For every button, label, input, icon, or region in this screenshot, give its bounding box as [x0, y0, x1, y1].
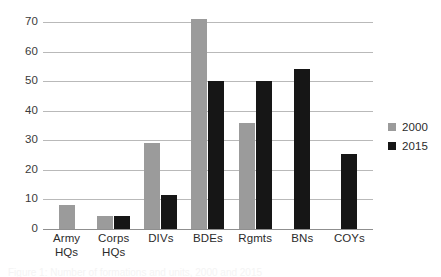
- x-axis-tick-label-line: COYs: [326, 232, 373, 246]
- x-axis: ArmyHQsCorpsHQsDIVsBDEsRgmtsBNsCOYs: [43, 232, 373, 272]
- bar-bns-2015: [294, 69, 310, 229]
- x-axis-tick-label: CorpsHQs: [90, 232, 137, 259]
- x-axis-tick-label-line: Corps: [90, 232, 137, 246]
- bar-rgmts-2000: [239, 123, 255, 229]
- y-axis-tick-label: 70: [2, 16, 38, 28]
- bar-rgmts-2015: [256, 81, 272, 229]
- x-axis-tick-label: DIVs: [137, 232, 184, 246]
- y-axis: 010203040506070: [0, 22, 38, 229]
- bar-group: [279, 22, 326, 229]
- x-axis-baseline: [43, 229, 373, 230]
- x-axis-tick-label-line: HQs: [43, 246, 90, 260]
- y-axis-tick-label: 50: [2, 75, 38, 87]
- figure-caption: Figure 1: Number of formations and units…: [8, 268, 308, 277]
- bar-group: [90, 22, 137, 229]
- x-axis-tick-label: Rgmts: [232, 232, 279, 246]
- legend-item-2000[interactable]: 2000: [388, 117, 441, 136]
- bar-group: [43, 22, 90, 229]
- x-axis-tick-label-line: HQs: [90, 246, 137, 260]
- bar-bdes-2000: [191, 19, 207, 229]
- legend-label: 2000: [402, 121, 428, 133]
- bar-bdes-2015: [208, 81, 224, 229]
- x-axis-tick-label: ArmyHQs: [43, 232, 90, 259]
- bar-group: [184, 22, 231, 229]
- y-axis-tick-label: 0: [2, 223, 38, 235]
- x-axis-tick-label: COYs: [326, 232, 373, 246]
- x-axis-tick-label-line: DIVs: [137, 232, 184, 246]
- bar-divs-2015: [161, 195, 177, 229]
- bar-corps-hqs-2015: [114, 216, 130, 229]
- x-axis-tick-label-line: BNs: [279, 232, 326, 246]
- bar-group: [137, 22, 184, 229]
- y-axis-tick-label: 20: [2, 164, 38, 176]
- x-axis-tick-label: BNs: [279, 232, 326, 246]
- x-axis-tick-label-line: Army: [43, 232, 90, 246]
- legend-item-2015[interactable]: 2015: [388, 136, 441, 155]
- y-axis-tick-label: 10: [2, 194, 38, 206]
- bar-group: [326, 22, 373, 229]
- legend-label: 2015: [402, 140, 428, 152]
- y-axis-tick-label: 40: [2, 105, 38, 117]
- chart-legend: 20002015: [388, 117, 441, 155]
- x-axis-tick-label: BDEs: [184, 232, 231, 246]
- figure-caption-text: Figure 1: Number of formations and units…: [8, 268, 308, 277]
- bar-army-hqs-2000: [59, 205, 75, 229]
- bar-coys-2015: [341, 154, 357, 229]
- x-axis-tick-label-line: BDEs: [184, 232, 231, 246]
- plot-area: [43, 22, 373, 229]
- legend-swatch-icon: [388, 123, 396, 131]
- y-axis-tick-label: 30: [2, 135, 38, 147]
- y-axis-tick-label: 60: [2, 46, 38, 58]
- x-axis-tick-label-line: Rgmts: [232, 232, 279, 246]
- bar-corps-hqs-2000: [97, 216, 113, 229]
- legend-swatch-icon: [388, 142, 396, 150]
- bar-divs-2000: [144, 143, 160, 229]
- bar-chart: 010203040506070 ArmyHQsCorpsHQsDIVsBDEsR…: [0, 0, 441, 277]
- bar-group: [232, 22, 279, 229]
